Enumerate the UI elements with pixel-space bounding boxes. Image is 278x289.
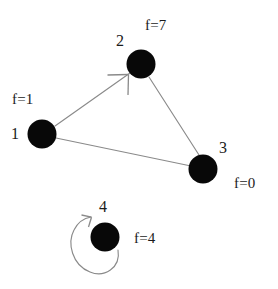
edge-node1-node3 bbox=[56, 138, 191, 166]
graph-diagram-canvas: 1 2 3 4 f=1 f=7 f=0 f=4 bbox=[0, 0, 278, 289]
node-3-f-label: f=0 bbox=[234, 176, 256, 191]
node-2-id-label: 2 bbox=[116, 33, 124, 49]
node-1-id-label: 1 bbox=[11, 126, 19, 142]
node-4-circle[interactable] bbox=[91, 223, 120, 252]
node-2-circle[interactable] bbox=[127, 50, 156, 79]
arrowhead-edge-node1-node2 bbox=[108, 75, 129, 96]
node-2-f-label: f=7 bbox=[145, 18, 167, 33]
edge-node2-node3 bbox=[149, 77, 199, 155]
node-4-f-label: f=4 bbox=[134, 231, 156, 246]
node-3-circle[interactable] bbox=[189, 155, 218, 184]
nodes-group bbox=[28, 50, 218, 252]
node-1-f-label: f=1 bbox=[12, 92, 34, 107]
node-4-id-label: 4 bbox=[99, 199, 107, 215]
node-3-id-label: 3 bbox=[219, 140, 227, 156]
edge-node1-node2 bbox=[55, 73, 130, 126]
edges-group bbox=[55, 73, 199, 166]
node-1-circle[interactable] bbox=[28, 120, 57, 149]
